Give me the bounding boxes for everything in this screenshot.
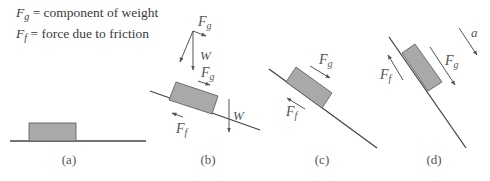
panel-a: (a) [10, 123, 146, 167]
ff-label: Ff [285, 104, 299, 121]
acceleration-label: a [471, 25, 478, 40]
fg-label: Fg [444, 53, 459, 70]
panel-b: Fg W Fg W Ff (b) [150, 14, 260, 167]
w-label-right: W [233, 108, 245, 123]
ff-label: Ff [379, 67, 393, 84]
caption-a: (a) [62, 152, 76, 167]
ff-label: Ff [175, 121, 189, 138]
block [169, 82, 218, 114]
friction-arrow [172, 113, 183, 117]
fg-component-arrow-top [193, 31, 206, 36]
diagram-canvas: (a) Fg W Fg W Ff (b) Fg Ff (c) Fg [0, 0, 490, 181]
panel-d: Fg Ff a (d) [379, 25, 478, 167]
panel-c: Fg Ff (c) [269, 52, 377, 167]
caption-b: (b) [200, 152, 215, 167]
fg-arrow [198, 81, 210, 85]
fg-label: Fg [318, 52, 333, 69]
incline-line [389, 37, 466, 148]
w-label-top: W [200, 48, 212, 63]
caption-c: (c) [315, 152, 329, 167]
normal-component-arrow [180, 31, 193, 62]
fg-label-top: Fg [197, 14, 212, 31]
fg-label-mid: Fg [200, 65, 215, 82]
caption-d: (d) [426, 152, 441, 167]
block [29, 123, 76, 141]
